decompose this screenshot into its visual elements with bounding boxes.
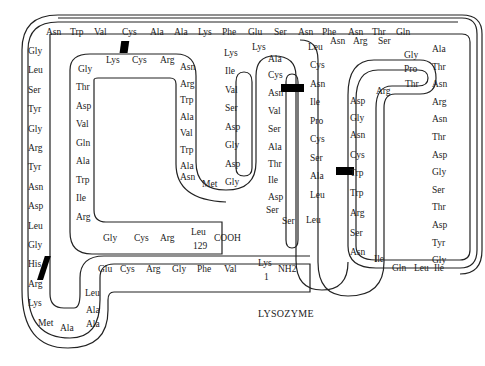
residue: Ala xyxy=(174,27,189,37)
residue: Tyr xyxy=(28,104,42,114)
disulfide-bond xyxy=(120,41,130,53)
residue: Arg xyxy=(432,97,447,107)
residue: Asp xyxy=(225,159,241,169)
residue: Arg xyxy=(180,79,195,89)
residue: Val xyxy=(76,119,89,129)
residue: Cys xyxy=(310,60,325,70)
residue: Asn xyxy=(350,247,366,257)
residue: Leu xyxy=(28,65,43,75)
residue: Asn xyxy=(180,62,196,72)
residue: 1 xyxy=(264,272,269,282)
residue: Ala xyxy=(268,54,283,64)
residue: Ser xyxy=(432,185,446,195)
residue: Ser xyxy=(225,103,239,113)
residue: Gly xyxy=(225,177,240,187)
residue: Leu xyxy=(191,227,206,237)
residue: Cys xyxy=(120,264,135,274)
residue: Ser xyxy=(378,36,392,46)
residue: Pro xyxy=(310,116,323,126)
residue: Leu xyxy=(308,42,323,52)
residue: Gly xyxy=(28,124,43,134)
residue: Arg xyxy=(160,55,175,65)
residue: Arg xyxy=(76,212,91,222)
disulfide-bond xyxy=(281,84,304,92)
residue: Asn xyxy=(330,36,346,46)
lysozyme-diagram: AsnTrpValCysAlaAlaLysPheGluSerAsnPheAsnT… xyxy=(0,0,485,366)
residue: Gly xyxy=(172,264,187,274)
residue: Gln xyxy=(76,138,91,148)
residue: Ala xyxy=(180,112,195,122)
residue: Ile xyxy=(374,254,384,264)
residue: Cys xyxy=(132,55,147,65)
residue: Ser xyxy=(310,153,324,163)
residue: Trp xyxy=(70,27,84,37)
residue: Asp xyxy=(432,220,448,230)
residue: Trp xyxy=(350,188,364,198)
residue: Ala xyxy=(86,319,101,329)
residue: Lys xyxy=(252,42,266,52)
residue: Ile xyxy=(225,66,235,76)
residue: Asn xyxy=(180,172,196,182)
residue: Pro xyxy=(404,64,417,74)
residue: Asn xyxy=(432,79,448,89)
residue: Asn xyxy=(298,27,314,37)
residue: Ser xyxy=(274,27,288,37)
residue: Gly xyxy=(350,113,365,123)
residue: Leu xyxy=(414,263,429,273)
residue: Leu xyxy=(28,221,43,231)
residue: Trp xyxy=(76,175,90,185)
residue: Asp xyxy=(76,101,92,111)
residue: Ile xyxy=(434,263,444,273)
residue: Asp xyxy=(268,192,284,202)
residue: Gly xyxy=(103,233,118,243)
residue: Thr xyxy=(432,62,447,72)
residue: Gly xyxy=(28,240,43,250)
residue: Arg xyxy=(160,233,175,243)
residue: Ala xyxy=(150,27,165,37)
residue: Arg xyxy=(28,143,43,153)
residue: Gln xyxy=(396,27,411,37)
residue: Leu xyxy=(310,190,325,200)
residue: Val xyxy=(94,27,107,37)
residue: Cys xyxy=(310,134,325,144)
residue: Val xyxy=(225,85,238,95)
residue: Thr xyxy=(432,202,447,212)
residue: Cys xyxy=(122,27,137,37)
residue: Ser xyxy=(282,216,296,226)
residue: Ser xyxy=(28,85,42,95)
residue: Trp xyxy=(180,145,194,155)
residue: Phe xyxy=(197,264,211,274)
residue: Ala xyxy=(310,171,325,181)
residue: Lys xyxy=(224,48,238,58)
residue: Trp xyxy=(180,95,194,105)
residue: Val xyxy=(268,106,281,116)
residue: Trp xyxy=(350,168,364,178)
residue: Met xyxy=(202,179,218,189)
residue: Asn xyxy=(310,79,326,89)
residue: Asp xyxy=(350,96,366,106)
residue: Arg xyxy=(28,279,43,289)
residue: Ala xyxy=(76,156,91,166)
residue: Ile xyxy=(76,193,86,203)
residue: COOH xyxy=(214,233,241,243)
residue: NH2 xyxy=(278,264,297,274)
residue: Gly xyxy=(432,167,447,177)
residue: Asp xyxy=(28,201,44,211)
residue: Asn xyxy=(350,130,366,140)
residue: Ser xyxy=(268,124,282,134)
residue: Thr xyxy=(268,159,283,169)
residue: Glu xyxy=(98,264,113,274)
residue: Phe xyxy=(222,27,236,37)
residue: Val xyxy=(180,128,193,138)
residue: Ala xyxy=(60,323,75,333)
residue: Thr xyxy=(405,79,420,89)
residue: Arg xyxy=(146,264,161,274)
residue: Asn xyxy=(268,88,284,98)
residue: Val xyxy=(224,264,237,274)
residue: Thr xyxy=(76,82,91,92)
residue: 129 xyxy=(193,241,208,251)
residue: Asp xyxy=(225,122,241,132)
residue: Glu xyxy=(248,27,263,37)
residue: Asn xyxy=(46,27,62,37)
residue: Ala xyxy=(180,161,195,171)
